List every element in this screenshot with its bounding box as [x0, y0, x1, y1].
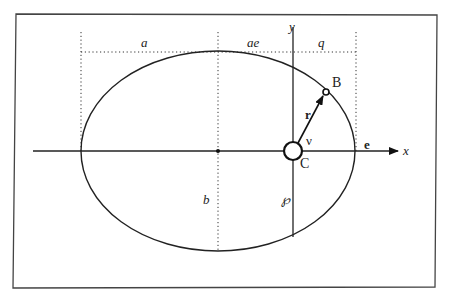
orbit-diagram: a ae q y x B C r ν e b ℘: [0, 0, 449, 300]
label-x-axis: x: [402, 143, 409, 158]
label-nu-angle: ν: [306, 133, 312, 148]
point-b-marker: [323, 89, 329, 95]
label-q: q: [318, 35, 325, 50]
label-c-focus: C: [300, 156, 309, 171]
dotted-guides: [81, 32, 356, 252]
label-a: a: [141, 35, 148, 50]
ellipse-center-dot: [216, 149, 220, 153]
label-p-semilatus: ℘: [281, 192, 291, 207]
label-y-axis: y: [287, 19, 295, 34]
label-e-vector: e: [364, 137, 370, 152]
label-ae: ae: [247, 35, 260, 50]
label-b-semi-minor: b: [203, 192, 210, 207]
label-b-point: B: [332, 75, 341, 90]
label-r-vector: r: [305, 107, 311, 122]
